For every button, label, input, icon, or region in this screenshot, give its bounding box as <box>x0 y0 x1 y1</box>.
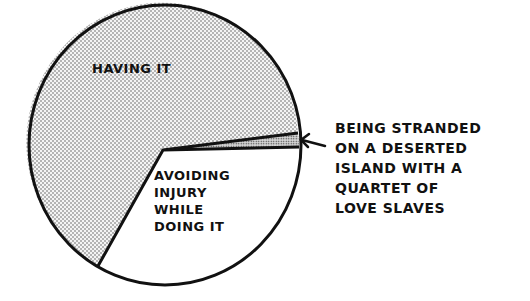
label-line: WHILE <box>154 201 230 218</box>
arrow-icon <box>301 134 325 147</box>
label-line: QUARTET OF <box>335 178 481 198</box>
label-line: ON A DESERTED <box>335 138 481 158</box>
label-line: ISLAND WITH A <box>335 158 481 178</box>
label-line: BEING STRANDED <box>335 118 481 138</box>
label-line: HAVING IT <box>92 62 171 76</box>
label-line: LOVE SLAVES <box>335 198 481 218</box>
label-stranded-island: BEING STRANDED ON A DESERTED ISLAND WITH… <box>335 118 481 218</box>
label-line: AVOIDING <box>154 167 230 184</box>
label-having-it: HAVING IT <box>92 62 171 76</box>
label-line: INJURY <box>154 184 230 201</box>
label-avoiding-injury: AVOIDING INJURY WHILE DOING IT <box>154 167 230 235</box>
label-line: DOING IT <box>154 218 230 235</box>
